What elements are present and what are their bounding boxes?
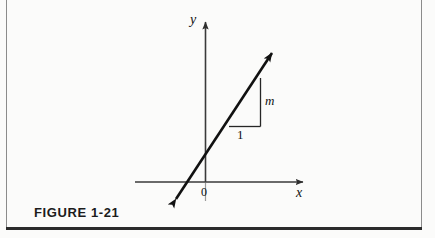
slope-run-label: 1 [237,128,244,141]
origin-label: 0 [201,186,207,198]
x-axis-label: x [296,186,302,200]
figure-caption: FIGURE 1-21 [34,205,119,220]
coordinate-plot [0,0,435,238]
slope-rise-label: m [265,94,274,107]
y-axis-label: y [190,13,196,27]
figure-plate: y x m 1 0 FIGURE 1-21 [0,0,435,238]
